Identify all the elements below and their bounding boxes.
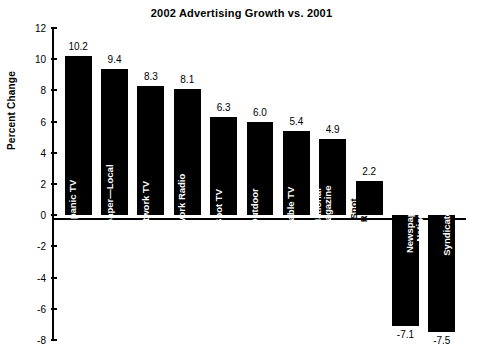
bar-category-label: Hispanic TV bbox=[68, 180, 78, 234]
bar-value-label: 2.2 bbox=[362, 166, 376, 177]
tick-label: -6 bbox=[37, 303, 46, 314]
advertising-growth-chart: 2002 Advertising Growth vs. 2001 Percent… bbox=[0, 0, 483, 364]
tick-label: 10 bbox=[35, 54, 46, 65]
bar-category-label: Syndicated TV bbox=[442, 190, 452, 255]
y-axis-title: Percent Change bbox=[6, 71, 17, 150]
bar-item: Hispanic TV10.2 bbox=[65, 28, 92, 340]
bar-value-label: -7.1 bbox=[397, 329, 414, 340]
tick-label: 8 bbox=[40, 85, 46, 96]
bar-category-label: Newspaper—Local bbox=[105, 165, 115, 250]
tick-label: -4 bbox=[37, 272, 46, 283]
bar-category-label: Newspaper—National bbox=[405, 193, 425, 253]
bar-item: Syndicated TV-7.5 bbox=[428, 28, 455, 340]
bar-value-label: 8.3 bbox=[144, 71, 158, 82]
bar-value-label: 6.3 bbox=[217, 102, 231, 113]
bar-value-label: 6.0 bbox=[253, 107, 267, 118]
bar-value-label: 10.2 bbox=[68, 41, 87, 52]
bar-item: Cable TV5.4 bbox=[283, 28, 310, 340]
bar-category-label: Network Radio bbox=[177, 174, 187, 241]
tick-label: -8 bbox=[37, 335, 46, 346]
bar-value-label: 9.4 bbox=[108, 54, 122, 65]
tick-label: -2 bbox=[37, 241, 46, 252]
bar-item: Network TV8.3 bbox=[137, 28, 164, 340]
bar-series: Hispanic TV10.2Newspaper—Local9.4Network… bbox=[52, 28, 466, 340]
bar-value-label: 4.9 bbox=[326, 124, 340, 135]
bar-value-label: -7.5 bbox=[433, 335, 450, 346]
bar-category-label: Cable TV bbox=[286, 187, 296, 228]
tick-label: 12 bbox=[35, 23, 46, 34]
bar-item: NationalMagazine4.9 bbox=[319, 28, 346, 340]
bar-item: Spot TV6.3 bbox=[210, 28, 237, 340]
bar-item: Newspaper—Local9.4 bbox=[101, 28, 128, 340]
tick-label: 4 bbox=[40, 147, 46, 158]
chart-title: 2002 Advertising Growth vs. 2001 bbox=[0, 7, 483, 19]
bar-value-label: 8.1 bbox=[180, 74, 194, 85]
tick-label: 6 bbox=[40, 116, 46, 127]
bar-item: Outdoor6.0 bbox=[247, 28, 274, 340]
bar-item: Network Radio8.1 bbox=[174, 28, 201, 340]
bar-value-label: 5.4 bbox=[289, 116, 303, 127]
bar-category-label: Network TV bbox=[141, 181, 151, 233]
bar-item: Newspaper—National-7.1 bbox=[392, 28, 419, 340]
bar-item: SpotRadio2.2 bbox=[356, 28, 383, 340]
plot-area: 121086420-2-4-6-8 Hispanic TV10.2Newspap… bbox=[52, 28, 466, 340]
tick-label: 2 bbox=[40, 179, 46, 190]
bar-category-label: SpotRadio bbox=[349, 196, 369, 222]
tick-label: 0 bbox=[40, 210, 46, 221]
bar-category-label: Spot TV bbox=[214, 189, 224, 225]
bar-category-label: Outdoor bbox=[250, 188, 260, 225]
bar-category-label: NationalMagazine bbox=[313, 186, 333, 229]
